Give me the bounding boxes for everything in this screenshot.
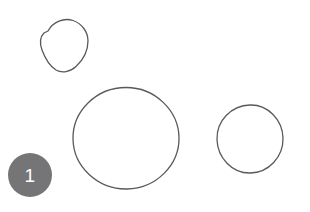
hand-drawn-circle-large-center	[73, 88, 179, 190]
marker-label: 1	[25, 166, 36, 185]
hand-drawn-circle-medium-right	[217, 105, 283, 173]
shape-group	[41, 20, 283, 189]
annotation-canvas: 1	[0, 0, 310, 212]
annotation-marker-1[interactable]: 1	[8, 153, 52, 197]
hand-drawn-oval-small-top-left	[41, 20, 88, 72]
